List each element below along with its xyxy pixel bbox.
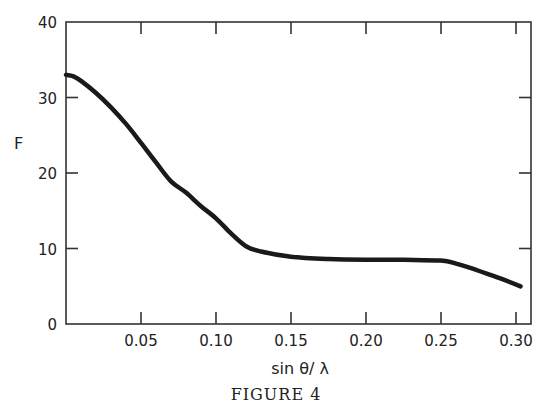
data-curve <box>66 75 521 286</box>
y-tick-label: 20 <box>38 165 57 183</box>
x-tick-label: 0.20 <box>349 332 382 350</box>
axis-ticks <box>66 22 531 324</box>
y-tick-label: 40 <box>38 14 57 32</box>
y-tick-label: 30 <box>38 90 57 108</box>
x-tick-label: 0.15 <box>274 332 307 350</box>
figure-caption: FIGURE 4 <box>231 385 322 404</box>
y-axis-label: F <box>14 134 23 153</box>
plot-border <box>66 22 531 324</box>
x-tick-label: 0.10 <box>199 332 232 350</box>
x-axis-label: sin θ/ λ <box>271 359 329 378</box>
y-tick-label: 10 <box>38 241 57 259</box>
plot-frame <box>66 22 531 324</box>
y-tick-label: 0 <box>47 316 57 334</box>
x-tick-label: 0.30 <box>499 332 532 350</box>
x-tick-label: 0.25 <box>424 332 457 350</box>
x-tick-labels: 0.050.100.150.200.250.30 <box>124 332 532 350</box>
line-chart: 0.050.100.150.200.250.30 010203040 F sin… <box>0 0 542 412</box>
x-tick-label: 0.05 <box>124 332 157 350</box>
y-tick-labels: 010203040 <box>38 14 57 334</box>
